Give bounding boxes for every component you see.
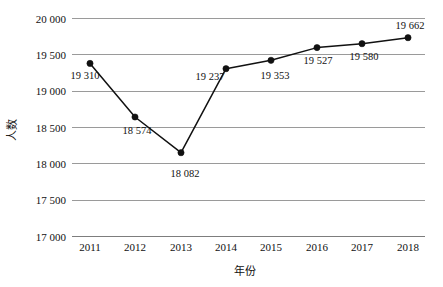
gridlines — [72, 19, 425, 201]
y-tick-labels: 20 000 19 500 19 000 18 500 18 000 17 50… — [36, 13, 67, 243]
y-tick-label-19000: 19 000 — [36, 85, 67, 97]
y-tick-label-17500: 17 500 — [36, 194, 67, 206]
line-chart: 20 000 19 500 19 000 18 500 18 000 17 50… — [0, 0, 443, 287]
data-label-2017: 19 580 — [350, 51, 379, 62]
data-point-2013 — [178, 150, 184, 156]
x-axis-title: 年份 — [234, 264, 256, 277]
data-labels: 19 310 18 574 18 082 19 237 19 353 19 52… — [71, 20, 425, 179]
data-label-2011: 19 310 — [71, 70, 100, 81]
data-label-2012: 18 574 — [123, 125, 153, 136]
chart-canvas: 20 000 19 500 19 000 18 500 18 000 17 50… — [0, 0, 443, 287]
x-tick-label-2012: 2012 — [124, 241, 146, 253]
data-point-2011 — [87, 60, 93, 66]
x-tick-labels: 2011 2012 2013 2014 2015 2016 2017 2018 — [79, 241, 419, 253]
x-tick-label-2018: 2018 — [397, 241, 420, 253]
x-tick-label-2016: 2016 — [306, 241, 329, 253]
x-tick-label-2011: 2011 — [79, 241, 101, 253]
x-tick-label-2014: 2014 — [215, 241, 238, 253]
data-label-2015: 19 353 — [261, 70, 290, 81]
y-tick-label-18000: 18 000 — [36, 158, 67, 170]
x-tick-label-2013: 2013 — [170, 241, 193, 253]
y-tick-label-20000: 20 000 — [36, 13, 67, 25]
y-axis-title: 人数 — [6, 119, 18, 141]
data-point-2016 — [314, 45, 320, 51]
y-tick-label-17000: 17 000 — [36, 231, 67, 243]
data-label-2013: 18 082 — [171, 168, 200, 179]
data-label-2014: 19 237 — [196, 71, 225, 82]
y-tick-label-19500: 19 500 — [36, 49, 67, 61]
data-point-2017 — [359, 41, 365, 47]
data-label-2016: 19 527 — [304, 55, 333, 66]
data-label-2018: 19 662 — [396, 20, 425, 31]
data-point-2015 — [268, 57, 274, 63]
x-tick-label-2015: 2015 — [260, 241, 283, 253]
data-point-2018 — [405, 35, 411, 41]
y-tick-label-18500: 18 500 — [36, 122, 67, 134]
x-tick-label-2017: 2017 — [351, 241, 374, 253]
data-point-2012 — [132, 114, 138, 120]
